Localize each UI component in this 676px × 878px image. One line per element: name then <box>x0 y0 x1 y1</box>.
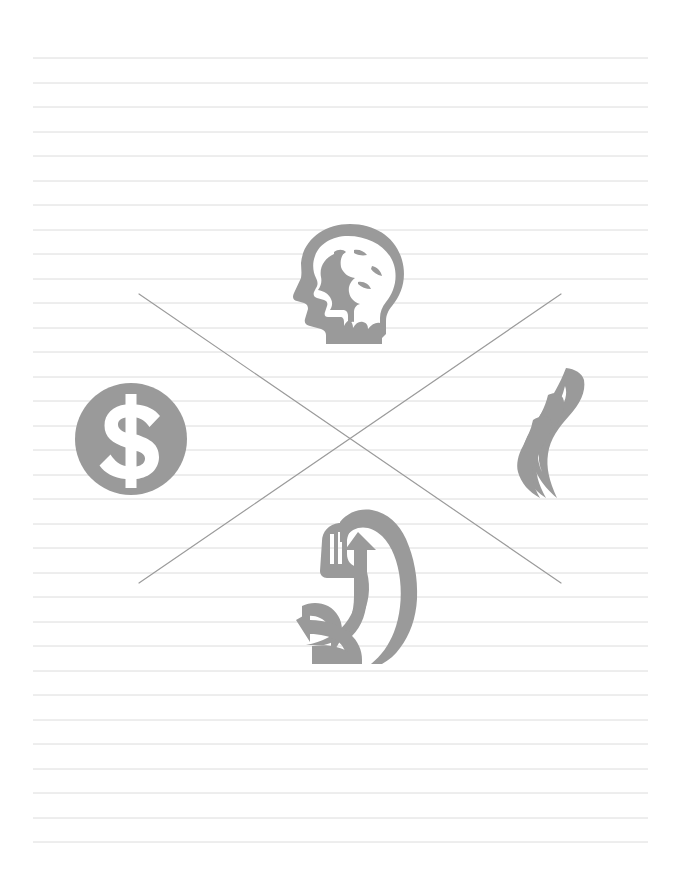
cross-out-mark <box>0 0 676 878</box>
notebook-page: Lined notebook page with crossed-out con… <box>0 0 676 878</box>
